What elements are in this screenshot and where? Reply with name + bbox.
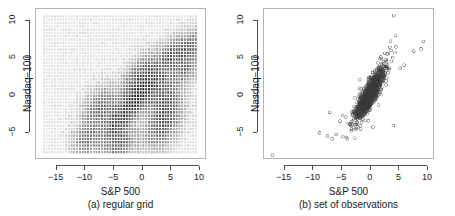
y-axis-title-b: Nasdaq−100: [250, 8, 261, 158]
y-axis-title-a: Nasdaq−100: [22, 8, 33, 158]
panel-caption-a: (a) regular grid: [88, 199, 154, 210]
x-tick-b-3: [370, 166, 371, 170]
x-tick-a-3: [142, 166, 143, 170]
x-tick-label-b-0: −15: [276, 173, 291, 182]
x-tick-a-4: [170, 166, 171, 170]
x-tick-label-b-3: 0: [367, 173, 372, 182]
panel-caption-b: (b) set of observations: [299, 199, 398, 210]
x-tick-label-a-5: 10: [194, 173, 204, 182]
x-axis-title-b: S&P 500: [329, 186, 368, 197]
x-tick-a-0: [56, 166, 57, 170]
grid-density-canvas: [36, 9, 205, 158]
panel-set-of-observations: −15−10−50510−50510 S&P 500 Nasdaq−100 (b…: [228, 0, 455, 216]
figure-root: −15−10−50510−50510 S&P 500 Nasdaq−100 (a…: [0, 0, 455, 216]
y-tick-label-a-1: 0: [8, 83, 17, 105]
x-tick-label-a-2: −5: [108, 173, 118, 182]
x-tick-b-5: [427, 166, 428, 170]
x-tick-b-0: [284, 166, 285, 170]
x-tick-label-a-0: −15: [48, 173, 63, 182]
x-tick-b-2: [341, 166, 342, 170]
x-axis-line-a: [56, 165, 199, 166]
y-tick-label-a-2: 5: [8, 46, 17, 68]
x-tick-a-5: [199, 166, 200, 170]
y-tick-label-a-0: −5: [8, 121, 17, 143]
y-tick-label-b-0: −5: [236, 121, 245, 143]
x-tick-label-b-1: −10: [305, 173, 320, 182]
y-tick-label-b-2: 5: [236, 46, 245, 68]
y-tick-label-a-3: 10: [8, 8, 17, 30]
scatter-canvas: [264, 9, 433, 158]
x-axis-title-a: S&P 500: [101, 186, 140, 197]
x-tick-label-a-1: −10: [77, 173, 92, 182]
x-tick-label-b-4: 5: [396, 173, 401, 182]
x-tick-b-1: [312, 166, 313, 170]
plot-area-b: [263, 8, 434, 159]
y-tick-label-b-3: 10: [236, 8, 245, 30]
x-tick-label-a-3: 0: [139, 173, 144, 182]
x-tick-label-a-4: 5: [168, 173, 173, 182]
x-axis-line-b: [284, 165, 427, 166]
plot-area-a: [35, 8, 206, 159]
x-tick-label-b-2: −5: [336, 173, 346, 182]
x-tick-b-4: [398, 166, 399, 170]
panel-regular-grid: −15−10−50510−50510 S&P 500 Nasdaq−100 (a…: [0, 0, 227, 216]
x-tick-a-2: [113, 166, 114, 170]
x-tick-label-b-5: 10: [422, 173, 432, 182]
x-tick-a-1: [84, 166, 85, 170]
y-tick-label-b-1: 0: [236, 83, 245, 105]
